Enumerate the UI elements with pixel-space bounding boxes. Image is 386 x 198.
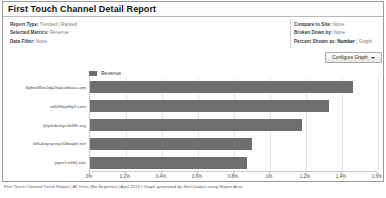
category-label[interactable]: tj0p4sbchycrb48h.org xyxy=(43,123,86,128)
report-frame: First Touch Channel Detail Report Report… xyxy=(2,1,384,182)
x-axis-tick-label: 0.2% xyxy=(120,174,130,179)
bar[interactable] xyxy=(90,157,247,169)
chevron-down-icon xyxy=(371,57,375,59)
category-label[interactable]: b9a4wysysey1f4bopjkf.net xyxy=(33,141,86,146)
report-meta-left: Report Type: Trended | Ranked Selected M… xyxy=(10,21,200,46)
meta-value-selected-metrics[interactable]: Revenue xyxy=(50,30,69,35)
report-footer: First Touch Channel Detail Report | All … xyxy=(4,184,382,189)
meta-label-compare-to-site: Compare to Site: xyxy=(294,22,332,27)
meta-row-data-filter: Data Filter: None xyxy=(10,38,200,46)
meta-value-compare-to-site[interactable]: None xyxy=(333,22,344,27)
legend-swatch-revenue xyxy=(89,71,97,76)
bar-chart: 3gffw0f6te2dp2lupsebkaa.comw3t3ffwp9q2l.… xyxy=(7,78,381,182)
meta-row-percent-shown-as: Percent Shown as: Number | Graph xyxy=(294,38,386,46)
meta-value-data-filter[interactable]: None xyxy=(36,39,47,44)
chart-plot-area xyxy=(89,78,377,172)
category-label[interactable]: jvpm1rx66lj.edu xyxy=(55,160,87,165)
meta-label-selected-metrics: Selected Metrics: xyxy=(10,30,49,35)
table-row[interactable] xyxy=(90,138,252,150)
x-axis-tick-label: 1.4% xyxy=(336,174,346,179)
table-row[interactable] xyxy=(90,100,329,112)
meta-value-broken-down-by[interactable]: None xyxy=(334,30,345,35)
legend-label-revenue: Revenue xyxy=(101,70,121,76)
category-label[interactable]: w3t3ffwp9q2l.com xyxy=(50,104,86,109)
chart-legend: Revenue xyxy=(89,70,121,76)
bar[interactable] xyxy=(90,138,252,150)
x-axis-tick-label: 0.6% xyxy=(192,174,202,179)
table-row[interactable] xyxy=(90,119,302,131)
report-meta-right: Compare to Site: None Broken Down by: No… xyxy=(294,21,386,46)
meta-label-broken-down-by: Broken Down by: xyxy=(294,30,333,35)
meta-value-percent-number[interactable]: Number xyxy=(337,39,355,44)
x-axis-tick-label: 0% xyxy=(86,174,93,179)
x-axis-tick-label: 0.8% xyxy=(228,174,238,179)
report-page: First Touch Channel Detail Report Report… xyxy=(0,0,386,198)
x-axis-tick-label: 0.4% xyxy=(156,174,166,179)
gridline xyxy=(378,78,379,171)
table-row[interactable] xyxy=(90,157,247,169)
meta-row-selected-metrics: Selected Metrics: Revenue xyxy=(10,29,200,37)
configure-graph-button[interactable]: Configure Graph xyxy=(325,52,382,63)
meta-row-broken-down-by: Broken Down by: None xyxy=(294,29,386,37)
meta-separator: | xyxy=(356,39,357,44)
bar[interactable] xyxy=(90,100,329,112)
meta-label-percent-shown-as: Percent Shown as: xyxy=(294,39,336,44)
meta-value-report-type[interactable]: Trended | Ranked xyxy=(40,22,77,27)
configure-graph-label: Configure Graph xyxy=(332,55,367,60)
meta-value-percent-graph[interactable]: Graph xyxy=(359,39,372,44)
bar[interactable] xyxy=(90,81,353,93)
report-title-bar: First Touch Channel Detail Report xyxy=(3,2,383,17)
meta-label-report-type: Report Type: xyxy=(10,22,39,27)
page-title: First Touch Channel Detail Report xyxy=(8,4,156,14)
meta-row-compare-to-site: Compare to Site: None xyxy=(294,21,386,29)
meta-label-data-filter: Data Filter: xyxy=(10,39,35,44)
bar[interactable] xyxy=(90,119,302,131)
meta-row-report-type: Report Type: Trended | Ranked xyxy=(10,21,200,29)
table-row[interactable] xyxy=(90,81,353,93)
x-axis-tick-label: 1% xyxy=(266,174,273,179)
meta-divider xyxy=(290,19,291,48)
x-axis-tick-label: 1.6% xyxy=(372,174,382,179)
x-axis-tick-label: 1.2% xyxy=(300,174,310,179)
category-label[interactable]: 3gffw0f6te2dp2lupsebkaa.com xyxy=(25,85,86,90)
